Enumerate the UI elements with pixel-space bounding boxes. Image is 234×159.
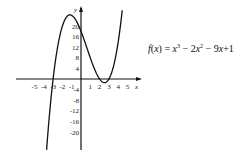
y-tick-label: -12 [70,107,80,115]
y-tick-label: -4 [73,86,79,94]
y-tick-label: -20 [70,129,80,137]
y-tick-label: -8 [73,97,79,105]
function-graph: y x -5-4-3-2-112345 20161284-4-8-12-16-2… [0,0,234,159]
function-equation-label: f(x) = x3 − 2x2 − 9x+18 [148,43,234,55]
y-tick-label: 4 [76,65,80,73]
x-tick-label: 3 [107,83,111,91]
y-tick-label: 8 [76,54,80,62]
x-tick-label: 5 [126,83,130,91]
x-tick-label: 1 [89,83,93,91]
y-axis-label: y [73,6,78,14]
x-tick-label: -3 [50,83,56,91]
y-tick-label: 12 [72,44,80,52]
x-tick-label: 4 [116,83,120,91]
x-axis-label: x [134,83,139,91]
x-tick-label: -5 [32,83,38,91]
function-curve [47,10,123,150]
x-tick-label: -4 [41,83,47,91]
x-tick-label: 2 [98,83,102,91]
y-tick-label: -16 [70,118,80,126]
y-tick-label: 16 [72,33,80,41]
y-axis-arrow-icon [79,6,83,12]
x-tick-label: -2 [59,83,65,91]
x-axis-arrow-icon [136,77,142,81]
